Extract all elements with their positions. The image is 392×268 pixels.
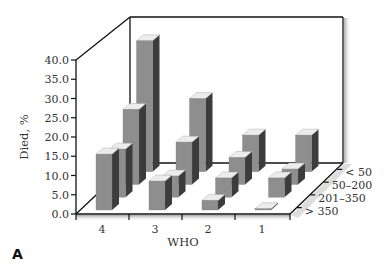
y-tick-label: 0.0 <box>52 208 70 221</box>
bar <box>96 148 119 210</box>
y-tick-label: 40.0 <box>45 54 70 67</box>
wall-shadow <box>344 18 351 163</box>
x-tick-label: 1 <box>259 223 266 236</box>
bar-side <box>153 35 160 172</box>
y-tick-label: 25.0 <box>45 112 70 125</box>
bar-front <box>202 200 218 210</box>
y-tick-label: 15.0 <box>45 150 70 163</box>
bar-front <box>269 178 285 197</box>
y-axis-title: Died, % <box>17 114 31 159</box>
x-tick-label: 4 <box>99 223 106 236</box>
x-tick-label: 2 <box>205 223 212 236</box>
bar-side <box>312 129 319 172</box>
bar <box>269 172 292 197</box>
bar-front <box>149 181 165 210</box>
bar <box>202 194 225 210</box>
depth-tick-label: 201–350 <box>318 192 366 205</box>
depth-tick-label: > 350 <box>305 205 339 218</box>
bar-side <box>206 93 213 172</box>
y-tick-label: 20.0 <box>45 131 70 144</box>
bar-side <box>126 143 133 197</box>
y-tick-label: 10.0 <box>45 170 70 183</box>
bar-front <box>96 154 112 210</box>
bar-side <box>112 148 119 210</box>
panel-label: A <box>12 246 23 262</box>
floor-shadow <box>76 215 290 221</box>
bar-side <box>259 129 266 172</box>
depth-tick-label: 50–200 <box>332 179 373 192</box>
bar <box>255 203 278 210</box>
bar <box>216 172 239 197</box>
bar <box>149 175 172 210</box>
x-tick-label: 3 <box>152 223 159 236</box>
chart: 0.05.010.015.020.025.030.035.040.0 4321 … <box>0 0 392 268</box>
x-axis-title: WHO <box>167 235 198 249</box>
depth-tick-label: < 50 <box>345 166 372 179</box>
y-axis: 0.05.010.015.020.025.030.035.040.0 <box>45 54 77 221</box>
y-tick-label: 35.0 <box>45 73 70 86</box>
y-tick-label: 30.0 <box>45 93 70 106</box>
bar-top <box>255 203 278 209</box>
bar-front <box>255 209 271 210</box>
y-tick-label: 5.0 <box>52 189 70 202</box>
bar-side <box>139 103 146 184</box>
bar-side <box>192 136 199 184</box>
